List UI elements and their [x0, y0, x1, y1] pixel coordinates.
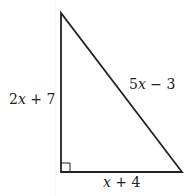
left-side-label: 2x + 7 [9, 91, 55, 107]
hypotenuse-label: 5x − 3 [129, 76, 175, 92]
right-triangle [61, 13, 182, 172]
bottom-side-label: x + 4 [103, 174, 141, 190]
triangle-diagram: 2x + 7 5x − 3 x + 4 [0, 0, 190, 196]
right-angle-marker [61, 163, 70, 172]
